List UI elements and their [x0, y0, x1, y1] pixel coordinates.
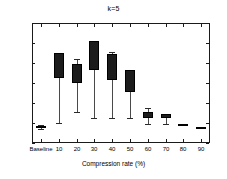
box-rect-90	[196, 127, 206, 129]
box-plot-item	[0, 0, 227, 179]
box-plot-chart: k=5 0.30.40.50.60.70.80.9 Baseline102030…	[0, 0, 227, 179]
